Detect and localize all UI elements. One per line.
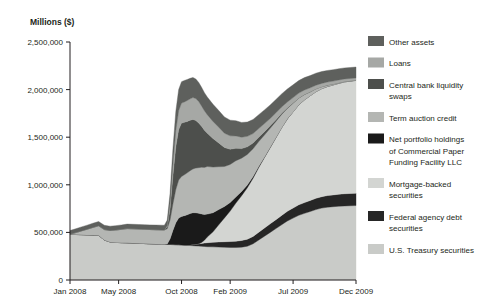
legend-swatch bbox=[368, 58, 384, 68]
legend-label: swaps bbox=[389, 92, 412, 101]
legend-label: securities bbox=[389, 224, 423, 233]
x-tick-label: Jul 2009 bbox=[278, 287, 309, 296]
y-tick-label: 500,000 bbox=[34, 228, 63, 237]
legend-swatch bbox=[368, 134, 384, 144]
legend-label: Term auction credit bbox=[389, 114, 457, 123]
y-tick-label: 2,000,000 bbox=[27, 86, 63, 95]
x-tick-label: Oct 2008 bbox=[165, 287, 198, 296]
legend-label: Mortgage-backed bbox=[389, 180, 451, 189]
legend-label: U.S. Treasury securities bbox=[389, 246, 474, 255]
y-axis-title: Millions ($) bbox=[30, 17, 75, 27]
x-tick-label: Jan 2008 bbox=[54, 287, 87, 296]
legend-label: of Commercial Paper bbox=[389, 147, 464, 156]
y-tick-label: 1,500,000 bbox=[27, 133, 63, 142]
x-tick-label: Dec 2009 bbox=[339, 287, 374, 296]
legend-swatch bbox=[368, 36, 384, 46]
legend-label: Federal agency debt bbox=[389, 213, 463, 222]
x-tick-label: Feb 2009 bbox=[213, 287, 247, 296]
legend-swatch bbox=[368, 112, 384, 122]
legend-label: Net portfolio holdings bbox=[389, 135, 464, 144]
y-tick-label: 0 bbox=[59, 276, 64, 285]
legend-label: Other assets bbox=[389, 38, 434, 47]
legend-swatch bbox=[368, 79, 384, 89]
y-tick-label: 1,000,000 bbox=[27, 181, 63, 190]
legend-swatch bbox=[368, 178, 384, 188]
stacked-area-chart: Millions ($) 0500,0001,000,0001,500,0002… bbox=[0, 0, 498, 303]
legend-label: Loans bbox=[389, 59, 411, 68]
y-tick-label: 2,500,000 bbox=[27, 38, 63, 47]
legend-swatch bbox=[368, 211, 384, 221]
legend-label: securities bbox=[389, 191, 423, 200]
legend-label: Central bank liquidity bbox=[389, 81, 463, 90]
legend-label: Funding Facility LLC bbox=[389, 158, 462, 167]
legend-swatch bbox=[368, 244, 384, 254]
x-tick-label: May 2008 bbox=[101, 287, 137, 296]
